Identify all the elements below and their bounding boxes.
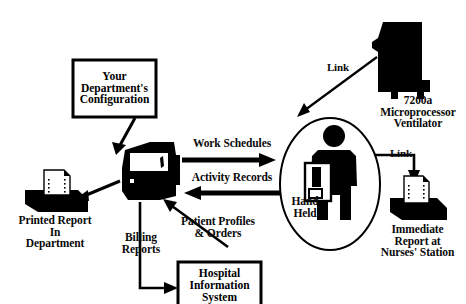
flow-label-activity-records: Activity Records [182, 172, 282, 184]
hospital-information-system-label: Hospital Information System [178, 262, 261, 304]
flow-label-patient-profiles: Patient Profiles & Orders [168, 216, 268, 239]
node-label-hand-held: Hand Held [283, 196, 327, 219]
computer-workstation-icon[interactable] [122, 142, 180, 200]
flow-label-work-schedules: Work Schedules [186, 138, 278, 150]
node-label-nurses-station-report: Immediate Report at Nurses' Station [369, 224, 466, 259]
ventilator-icon[interactable] [372, 22, 430, 99]
node-label-printed-report: Printed Report In Department [0, 215, 110, 250]
node-label-ventilator: 7200a Microprocessor Ventilator [370, 95, 466, 130]
flow-label-link-nurses: Link [381, 148, 421, 159]
department-configuration-label: Your Department's Configuration [73, 60, 156, 117]
flow-label-billing-reports: Billing Reports [110, 232, 172, 255]
flow-label-link-ventilator: Link [318, 62, 358, 73]
